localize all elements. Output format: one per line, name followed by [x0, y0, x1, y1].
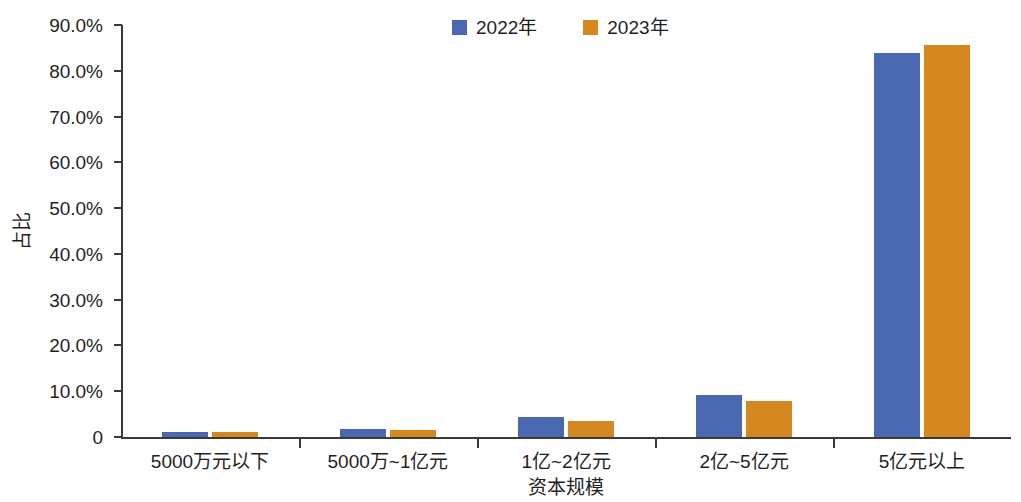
y-axis-tick: 40.0% — [114, 253, 122, 255]
y-axis-tick-label: 70.0% — [49, 107, 103, 126]
bar-2022年-2亿~5亿元 — [696, 395, 742, 437]
x-axis-line — [121, 437, 1011, 439]
x-axis-tick — [299, 437, 301, 448]
y-axis-tick-label: 80.0% — [49, 61, 103, 80]
y-axis-tick-label: 90.0% — [49, 16, 103, 35]
y-axis-tick-label: 0 — [92, 428, 103, 447]
bar-2023年-1亿~2亿元 — [568, 421, 614, 437]
y-axis-tick: 60.0% — [114, 161, 122, 163]
y-axis-tick: 10.0% — [114, 390, 122, 392]
x-axis-category-label: 5000万元以下 — [151, 452, 269, 472]
y-axis-tick-label: 60.0% — [49, 153, 103, 172]
y-axis-tick: 20.0% — [114, 344, 122, 346]
y-axis-tick: 50.0% — [114, 207, 122, 209]
x-axis-category-label: 5000万~1亿元 — [328, 452, 449, 472]
bar-2022年-5亿元以上 — [874, 53, 920, 437]
y-axis-tick-label: 50.0% — [49, 199, 103, 218]
y-axis-tick: 70.0% — [114, 116, 122, 118]
x-axis-category-label: 1亿~2亿元 — [521, 452, 610, 472]
y-axis-tick: 80.0% — [114, 70, 122, 72]
x-axis-category-label: 2亿~5亿元 — [699, 452, 788, 472]
plot-area: 010.0%20.0%30.0%40.0%50.0%60.0%70.0%80.0… — [121, 25, 1011, 437]
bar-2022年-1亿~2亿元 — [518, 417, 564, 437]
y-axis-tick-label: 10.0% — [49, 382, 103, 401]
bar-2022年-5000万~1亿元 — [340, 429, 386, 437]
bar-2023年-5000万元以下 — [212, 432, 258, 437]
y-axis-tick: 0 — [114, 436, 122, 438]
y-axis-tick-label: 30.0% — [49, 290, 103, 309]
x-axis-title: 资本规模 — [528, 478, 604, 498]
bar-chart-figure: 2022年 2023年 占比 010.0%20.0%30.0%40.0%50.0… — [0, 0, 1021, 502]
y-axis-tick: 90.0% — [114, 24, 122, 26]
x-axis-category-label: 5亿元以上 — [879, 452, 966, 472]
bar-2022年-5000万元以下 — [162, 432, 208, 437]
y-axis-line — [121, 25, 123, 437]
x-axis-tick — [477, 437, 479, 448]
y-axis-title: 占比 — [13, 212, 33, 250]
bar-2023年-5000万~1亿元 — [390, 430, 436, 437]
y-axis-tick-label: 40.0% — [49, 244, 103, 263]
bar-2023年-5亿元以上 — [924, 45, 970, 437]
x-axis-tick — [655, 437, 657, 448]
bar-2023年-2亿~5亿元 — [746, 401, 792, 437]
x-axis-tick — [833, 437, 835, 448]
y-axis-tick-label: 20.0% — [49, 336, 103, 355]
y-axis-tick: 30.0% — [114, 299, 122, 301]
